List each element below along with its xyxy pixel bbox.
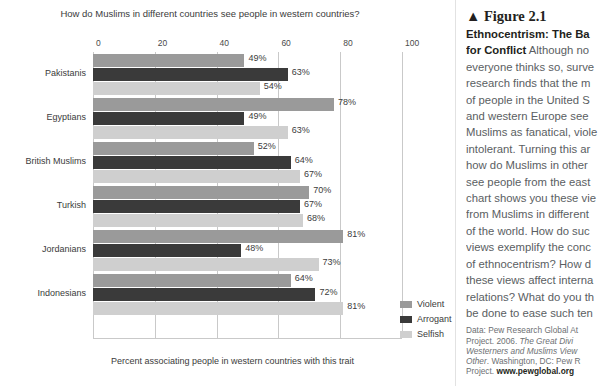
source-project-word: Project. [466,366,496,376]
bar-value-label: 70% [313,185,331,195]
bar-arrogant-indonesians[interactable] [93,288,315,301]
bar-value-label: 64% [295,155,313,165]
bar-row: 81% [93,230,402,243]
source-title-part3: Other [466,356,487,366]
x-tick-label-0: 0 [93,38,101,48]
bar-group-jordanians: Jordanians81%48%73% [93,230,402,272]
bar-row: 64% [93,274,402,287]
bar-selfish-jordanians[interactable] [93,258,319,271]
x-tick-label-80: 80 [340,38,352,48]
chart-legend: ViolentArrogantSelfish [400,298,452,343]
figure-triangle-icon: ▲ [466,8,480,24]
bar-arrogant-turkish[interactable] [93,200,300,213]
figure-headline-cont: for Conflict [466,44,526,56]
category-label-jordanians: Jordanians [42,244,86,254]
bar-selfish-british-muslims[interactable] [93,170,300,183]
x-tick-label-20: 20 [155,38,167,48]
legend-item-selfish[interactable]: Selfish [400,328,452,340]
figure-body-line-4: and western Europe see [466,108,602,124]
bar-violent-turkish[interactable] [93,186,309,199]
figure-body-line-13: of ethnocentrism? How d [466,256,602,272]
figure-heading: ▲ Figure 2.1 [466,8,602,25]
bar-row: 49% [93,112,402,125]
x-tick-label-100: 100 [402,38,419,48]
bar-violent-pakistanis[interactable] [93,54,244,67]
bar-value-label: 81% [347,301,365,311]
bar-value-label: 73% [323,257,341,267]
figure-body-line-0: Although no [529,44,589,56]
bar-arrogant-british-muslims[interactable] [93,156,291,169]
bar-value-label: 81% [347,229,365,239]
bar-row: 68% [93,214,402,227]
bar-row: 52% [93,142,402,155]
source-line-1: Project. 2006. The Great Divi [466,336,602,346]
bar-value-label: 67% [304,199,322,209]
bar-value-label: 48% [245,243,263,253]
source-line-4: Project. www.pewglobal.org [466,366,602,376]
gridline-100 [402,52,403,338]
figure-body-line-12: views exemplify the conc [466,239,602,255]
source-title-part1: The Great Divi [520,336,573,346]
bar-value-label: 72% [319,287,337,297]
category-label-turkish: Turkish [57,200,86,210]
bar-value-label: 78% [338,97,356,107]
bar-arrogant-pakistanis[interactable] [93,68,288,81]
figure-body-line-6: intolerant. Turning this ar [466,141,602,157]
x-axis-line [93,338,402,339]
bar-value-label: 52% [258,141,276,151]
bar-violent-egyptians[interactable] [93,98,334,111]
bar-row: 49% [93,54,402,67]
bar-arrogant-egyptians[interactable] [93,112,244,125]
bar-violent-jordanians[interactable] [93,230,343,243]
bar-selfish-pakistanis[interactable] [93,82,260,95]
source-line-0: Data: Pew Research Global At [466,325,602,335]
source-url-link[interactable]: www.pewglobal.org [496,366,574,376]
bar-violent-british-muslims[interactable] [93,142,254,155]
bar-group-british-muslims: British Muslims52%64%67% [93,142,402,184]
figure-text-panel: ▲ Figure 2.1 Ethnocentrism: The Ba for C… [466,0,602,386]
figure-body-line-1: everyone thinks so, surve [466,59,602,75]
figure-headline-line1: Ethnocentrism: The Ba [466,26,602,42]
bar-row: 63% [93,126,402,139]
bar-value-label: 64% [295,273,313,283]
x-axis-caption: Percent associating people in western co… [60,356,405,366]
legend-item-arrogant[interactable]: Arrogant [400,313,452,325]
bar-group-turkish: Turkish70%67%68% [93,186,402,228]
bar-row: 73% [93,258,402,271]
bar-selfish-turkish[interactable] [93,214,303,227]
bar-row: 48% [93,244,402,257]
bar-row: 72% [93,288,402,301]
figure-headline-line2: for Conflict Although no [466,42,602,58]
figure-body-line-3: of people in the United S [466,92,602,108]
category-label-egyptians: Egyptians [46,112,86,122]
legend-swatch-arrogant-icon [400,316,412,323]
figure-body-line-10: from Muslims in different [466,206,602,222]
x-tick-label-60: 60 [278,38,290,48]
legend-label-violent: Violent [417,299,444,309]
category-label-british-muslims: British Muslims [25,156,86,166]
bar-row: 70% [93,186,402,199]
figure-body-line-5: Muslims as fanatical, viole [466,124,602,140]
bar-row: 54% [93,82,402,95]
figure-body-line-9: chart shows you these vie [466,190,602,206]
bar-arrogant-jordanians[interactable] [93,244,241,257]
bar-selfish-egyptians[interactable] [93,126,288,139]
category-label-pakistanis: Pakistanis [45,68,86,78]
figure-body-line-15: relations? What do you th [466,289,602,305]
source-line-2: Westerners and Muslims View [466,346,602,356]
bar-row: 64% [93,156,402,169]
legend-item-violent[interactable]: Violent [400,298,452,310]
figure-body-line-16: be done to ease such ten [466,305,602,321]
bar-selfish-indonesians[interactable] [93,302,343,315]
plot-area: 020406080100Pakistanis49%63%54%Egyptians… [93,52,402,338]
figure-body-text: Ethnocentrism: The Ba for Conflict Altho… [466,26,602,321]
figure-body-line-8: see people from the east [466,174,602,190]
legend-label-selfish: Selfish [417,329,444,339]
bar-row: 78% [93,98,402,111]
bar-violent-indonesians[interactable] [93,274,291,287]
chart-panel: How do Muslims in different countries se… [0,0,415,386]
source-publisher: . Washington, DC: Pew R [487,356,581,366]
bar-row: 63% [93,68,402,81]
bar-row: 81% [93,302,402,315]
